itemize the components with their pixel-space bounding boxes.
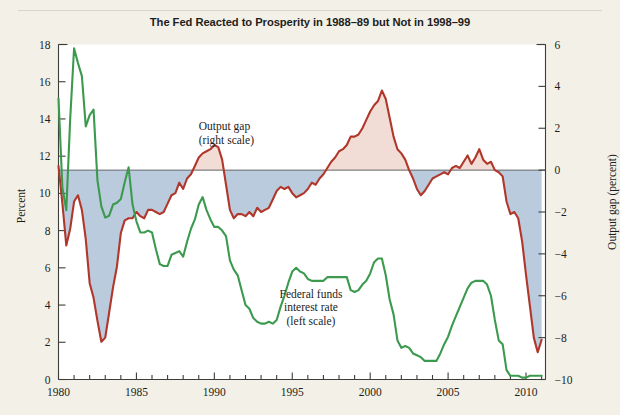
svg-text:−10: −10 xyxy=(555,374,573,386)
svg-text:1985: 1985 xyxy=(125,386,148,398)
svg-text:−8: −8 xyxy=(555,332,567,344)
output-gap-label-line-1: Output gap xyxy=(199,120,251,133)
svg-text:4: 4 xyxy=(45,299,51,311)
svg-text:4: 4 xyxy=(555,80,561,92)
svg-text:12: 12 xyxy=(39,150,51,162)
output-gap-label-line-2: (right scale) xyxy=(199,134,254,147)
chart-figure: The Fed Reacted to Prosperity in 1988–89… xyxy=(0,0,620,415)
svg-text:8: 8 xyxy=(45,225,51,237)
svg-text:10: 10 xyxy=(39,187,51,199)
plot-area: 024681012141618−10−8−6−4−202461980198519… xyxy=(0,0,620,415)
svg-text:16: 16 xyxy=(39,76,51,88)
fed-funds-label-line-2: interest rate xyxy=(284,301,338,313)
svg-text:−6: −6 xyxy=(555,290,567,302)
fed-funds-label-line-1: Federal funds xyxy=(279,288,342,300)
svg-text:1980: 1980 xyxy=(47,386,70,398)
svg-text:2010: 2010 xyxy=(515,386,538,398)
svg-text:2005: 2005 xyxy=(437,386,460,398)
svg-text:−2: −2 xyxy=(555,206,567,218)
fed-funds-label-line-3: (left scale) xyxy=(287,315,336,328)
svg-text:18: 18 xyxy=(39,39,51,51)
svg-text:6: 6 xyxy=(555,39,561,51)
svg-text:1995: 1995 xyxy=(281,386,304,398)
svg-text:14: 14 xyxy=(39,113,51,125)
svg-text:0: 0 xyxy=(45,374,51,386)
svg-text:−4: −4 xyxy=(555,248,567,260)
svg-text:2: 2 xyxy=(45,336,51,348)
svg-text:2000: 2000 xyxy=(359,386,382,398)
svg-text:1990: 1990 xyxy=(203,386,226,398)
svg-text:0: 0 xyxy=(555,164,561,176)
svg-text:2: 2 xyxy=(555,122,561,134)
svg-text:6: 6 xyxy=(45,262,51,274)
